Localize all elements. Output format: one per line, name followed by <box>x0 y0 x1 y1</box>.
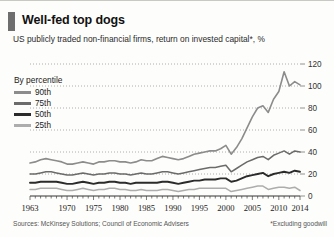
x-axis-tick-label: 2010 <box>270 203 287 213</box>
x-axis-tick-label: 2000 <box>217 203 234 213</box>
series-line-75th <box>30 151 300 175</box>
series-line-90th <box>30 72 300 164</box>
y-axis-tick-label: 100 <box>308 82 322 91</box>
y-axis-tick-label: 20 <box>308 170 318 179</box>
footnote: *Excluding goodwill <box>270 220 327 227</box>
x-axis-tick-label: 1985 <box>138 203 155 213</box>
x-axis-tick-label: 2014 <box>291 203 309 213</box>
source-note: Sources: McKinsey Solutions; Council of … <box>13 220 189 227</box>
x-axis-tick-label: 1970 <box>58 203 75 213</box>
y-axis-tick-label: 60 <box>308 126 318 135</box>
x-axis-tick-label: 1995 <box>191 203 208 213</box>
x-axis-tick-label: 1963 <box>21 203 38 213</box>
x-axis-tick-label: 1980 <box>111 203 128 213</box>
y-axis-tick-label: 80 <box>308 104 318 113</box>
plot-area: 0204060801001201963197019751980198519901… <box>0 0 334 237</box>
chart-figure: Well-fed top dogs US publicly traded non… <box>0 0 334 237</box>
y-axis-tick-label: 40 <box>308 148 318 157</box>
x-axis-tick-label: 1990 <box>164 203 181 213</box>
series-line-50th <box>30 171 300 184</box>
y-axis-tick-label: 120 <box>308 60 322 69</box>
series-line-25th <box>30 186 300 192</box>
y-axis-tick-label: 0 <box>308 192 313 201</box>
x-axis-tick-label: 1975 <box>85 203 102 213</box>
x-axis-tick-label: 2005 <box>244 203 261 213</box>
